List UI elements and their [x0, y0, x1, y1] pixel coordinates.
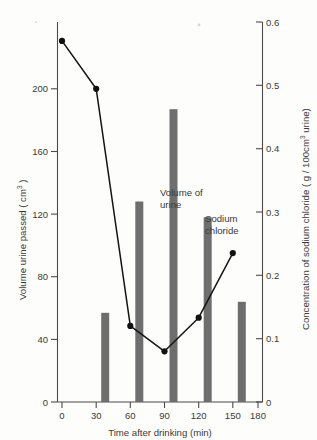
- data-point-0min: [59, 38, 65, 44]
- left-axis-title: Volume urine passed ( cm3 ): [16, 180, 28, 300]
- annotation-volume-line1: Volume of: [160, 187, 203, 198]
- y2tick-label-0.4: 0.4: [266, 143, 279, 154]
- xtick-label-120: 120: [191, 410, 207, 421]
- left-axis-ticks: [51, 89, 58, 402]
- ytick-label-160: 160: [32, 146, 48, 157]
- data-point-120min: [196, 315, 202, 321]
- right-axis-title-prefix: Concentration of sodium chloride ( g / 1…: [300, 139, 311, 330]
- left-axis-title-suffix: ): [17, 180, 28, 186]
- bar-series-volume-of-urine: [101, 109, 246, 402]
- ytick-label-200: 200: [32, 83, 48, 94]
- annotation-sodium-chloride: Sodium chloride: [205, 213, 239, 236]
- y2tick-label-0.3: 0.3: [266, 207, 279, 218]
- chart-canvas: 0 40 80 120 160 200 Volume urine passed …: [0, 0, 317, 440]
- xtick-label-90: 90: [159, 410, 170, 421]
- xtick-label-60: 60: [125, 410, 136, 421]
- data-point-30min: [93, 86, 99, 92]
- bar-60min: [135, 202, 143, 403]
- xtick-label-180: 180: [250, 410, 266, 421]
- right-axis-title-suffix: urine): [300, 108, 311, 135]
- y2tick-label-0.5: 0.5: [266, 80, 279, 91]
- chart-figure: 0 40 80 120 160 200 Volume urine passed …: [0, 0, 317, 440]
- bar-90min: [170, 109, 178, 402]
- y2tick-label-0.6: 0.6: [266, 17, 279, 28]
- x-axis-ticks: [62, 402, 258, 408]
- y2tick-label-0.2: 0.2: [266, 270, 279, 281]
- data-point-90min: [161, 348, 167, 354]
- ytick-label-80: 80: [37, 271, 48, 282]
- xtick-label-30: 30: [91, 410, 102, 421]
- right-axis-ticks: [256, 22, 263, 402]
- data-point-150min: [230, 250, 236, 256]
- ytick-label-40: 40: [37, 334, 48, 345]
- y2tick-label-0: 0: [266, 397, 271, 408]
- ytick-label-0: 0: [43, 397, 48, 408]
- y2tick-label-0.1: 0.1: [266, 333, 279, 344]
- bar-30min: [101, 313, 109, 402]
- scan-speck: [198, 24, 201, 27]
- annotation-volume-line2: urine: [160, 199, 181, 210]
- data-point-60min: [127, 323, 133, 329]
- x-axis-title: Time after drinking (min): [108, 427, 212, 438]
- right-axis-title: Concentration of sodium chloride ( g / 1…: [299, 108, 311, 330]
- svg-text:Concentration of sodium chlori: Concentration of sodium chloride ( g / 1…: [299, 108, 311, 330]
- annotation-nacl-line1: Sodium: [205, 213, 238, 224]
- xtick-label-0: 0: [59, 410, 64, 421]
- annotation-volume-of-urine: Volume of urine: [160, 187, 203, 210]
- annotation-nacl-line2: chloride: [205, 225, 239, 236]
- bar-150min: [238, 302, 246, 402]
- left-axis-title-prefix: Volume urine passed ( cm: [17, 189, 28, 300]
- bar-120min: [204, 217, 212, 402]
- svg-text:Volume urine passed ( cm3 ): Volume urine passed ( cm3 ): [16, 180, 28, 300]
- scan-speck: [35, 21, 37, 23]
- ytick-label-120: 120: [32, 209, 48, 220]
- xtick-label-150: 150: [225, 410, 241, 421]
